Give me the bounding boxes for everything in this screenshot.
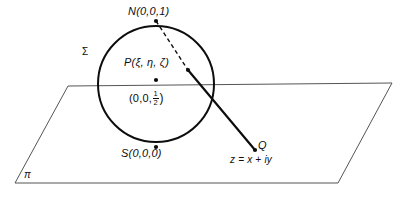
plane-pi bbox=[15, 83, 392, 183]
north-pole-dot bbox=[154, 19, 158, 23]
label-complex-number: z = x + iy bbox=[230, 155, 272, 165]
point-q-dot bbox=[253, 148, 257, 152]
fraction-denominator: 2 bbox=[153, 98, 159, 107]
center-fraction: 1 2 bbox=[153, 90, 159, 107]
center-suffix: ) bbox=[159, 92, 163, 104]
sphere-sigma-circle bbox=[98, 26, 214, 142]
fraction-numerator: 1 bbox=[153, 90, 159, 98]
label-sphere-center: (0,0, 1 2 ) bbox=[129, 90, 164, 107]
sphere-center-dot bbox=[154, 78, 158, 82]
label-south-pole: S(0,0,0) bbox=[121, 148, 162, 159]
plane-left-edge bbox=[15, 86, 68, 183]
label-point-q: Q bbox=[258, 140, 267, 151]
label-point-p: P(ξ, η, ζ) bbox=[124, 57, 169, 68]
label-north-pole: N(0,0,1) bbox=[128, 6, 169, 17]
label-sphere-sigma: Σ bbox=[82, 47, 88, 57]
figure-caption bbox=[0, 195, 401, 203]
center-prefix: (0,0, bbox=[129, 93, 152, 104]
label-plane-pi: π bbox=[24, 170, 31, 180]
plane-top-edge bbox=[68, 83, 392, 86]
stereographic-projection-diagram bbox=[0, 0, 401, 203]
projection-ray-p-to-q bbox=[188, 70, 255, 150]
plane-right-edge bbox=[338, 83, 392, 183]
point-p-dot bbox=[186, 68, 190, 72]
